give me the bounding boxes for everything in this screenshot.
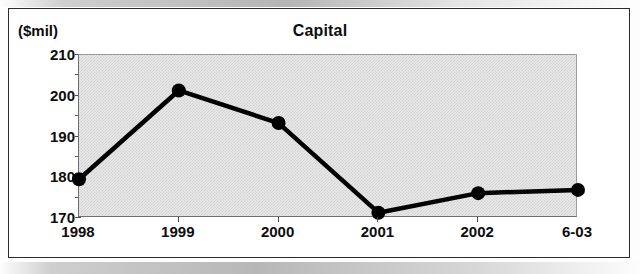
- x-tick-label-1999: 1999: [133, 223, 223, 240]
- x-axis: 199819992000200120026-03: [78, 9, 577, 259]
- x-tick-label-2002: 2002: [432, 223, 522, 240]
- y-tick-label-200: 200: [29, 86, 75, 103]
- y-tick-label-210: 210: [29, 46, 75, 63]
- x-tick-label-2001: 2001: [332, 223, 422, 240]
- x-tick-2002: [477, 217, 478, 222]
- scan-artifact-top: [0, 0, 640, 7]
- y-axis: 170180190200210: [17, 54, 75, 217]
- y-tick-label-180: 180: [29, 168, 75, 185]
- x-tick-1999: [178, 217, 179, 222]
- y-tick-label-190: 190: [29, 127, 75, 144]
- x-tick-label-2000: 2000: [233, 223, 323, 240]
- x-tick-label-6-03: 6-03: [532, 223, 622, 240]
- scan-artifact-bottom: [0, 262, 640, 274]
- chart-frame: ($mil) Capital 170180190200210 199819992…: [8, 8, 630, 258]
- x-tick-label-1998: 1998: [33, 223, 123, 240]
- scanned-page: ($mil) Capital 170180190200210 199819992…: [0, 0, 640, 274]
- x-tick-2001: [377, 217, 378, 222]
- x-tick-2000: [278, 217, 279, 222]
